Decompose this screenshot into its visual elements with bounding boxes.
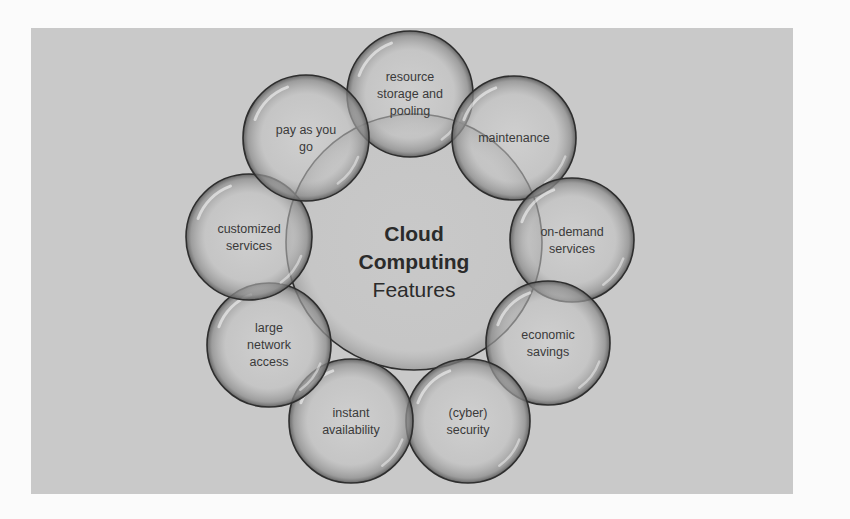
bubble-label: pay as you <box>276 123 337 137</box>
center-title-line1: Cloud <box>384 222 443 245</box>
bubble-label: security <box>446 423 490 437</box>
bubble-label: services <box>549 242 595 256</box>
bubble-label: maintenance <box>478 131 550 145</box>
bubble-label: access <box>250 355 289 369</box>
bubble-label: instant <box>333 406 370 420</box>
bubble-label: large <box>255 321 283 335</box>
bubble-label: (cyber) <box>449 406 488 420</box>
bubble-label: on-demand <box>540 225 603 239</box>
bubble-label: storage and <box>377 87 443 101</box>
bubble-label: pooling <box>390 104 430 118</box>
center-title-line2: Computing <box>359 250 470 273</box>
bubble-label: availability <box>322 423 380 437</box>
cloud-features-diagram: resourcestorage andpoolingmaintenanceon-… <box>0 0 850 519</box>
bubble-label: customized <box>217 222 280 236</box>
bubble-label: go <box>299 140 313 154</box>
bubble-circle <box>406 359 530 483</box>
bubble-label: network <box>247 338 292 352</box>
bubble-label: savings <box>527 345 569 359</box>
center-subtitle: Features <box>373 278 456 301</box>
bubble-label: resource <box>386 70 435 84</box>
feature-bubble-pay-as-you-go: pay as yougo <box>243 75 369 201</box>
bubble-label: services <box>226 239 272 253</box>
feature-bubble-cyber-security: (cyber)security <box>406 359 530 483</box>
bubble-label: economic <box>521 328 575 342</box>
bubble-circle <box>243 75 369 201</box>
feature-bubble-large-network-access: largenetworkaccess <box>207 283 331 407</box>
